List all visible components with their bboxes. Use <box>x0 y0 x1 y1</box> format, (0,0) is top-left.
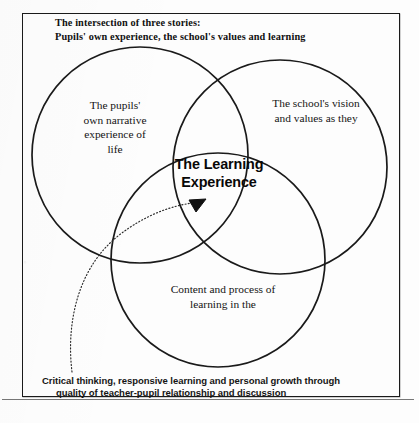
venn-canvas <box>0 0 419 423</box>
center-label-line-2: Experience <box>148 173 290 191</box>
center-label-line-1: The Learning <box>148 155 290 173</box>
label-line: experience of <box>56 127 174 142</box>
page-bottom-rule <box>2 399 414 400</box>
label-line: own narrative <box>56 113 174 128</box>
label-line: The school's vision <box>248 96 384 111</box>
label-pupils-experience: The pupils' own narrative experience of … <box>56 98 174 156</box>
pointer-arrowhead <box>189 199 206 212</box>
caption-line-1: Critical thinking, responsive learning a… <box>42 375 382 387</box>
label-line: The pupils' <box>56 98 174 113</box>
label-the-learning-experience: The Learning Experience <box>148 155 290 191</box>
caption-line-2: quality of teacher-pupil relationship an… <box>42 387 382 399</box>
label-line: Content and process of <box>148 282 298 297</box>
label-school-vision: The school's vision and values as they <box>248 96 384 125</box>
venn-diagram-figure: The intersection of three stories: Pupil… <box>0 0 419 423</box>
label-line: learning in the <box>148 297 298 312</box>
label-line: and values as they <box>248 111 384 126</box>
label-content-process: Content and process of learning in the <box>148 282 298 311</box>
diagram-caption: Critical thinking, responsive learning a… <box>42 375 382 400</box>
